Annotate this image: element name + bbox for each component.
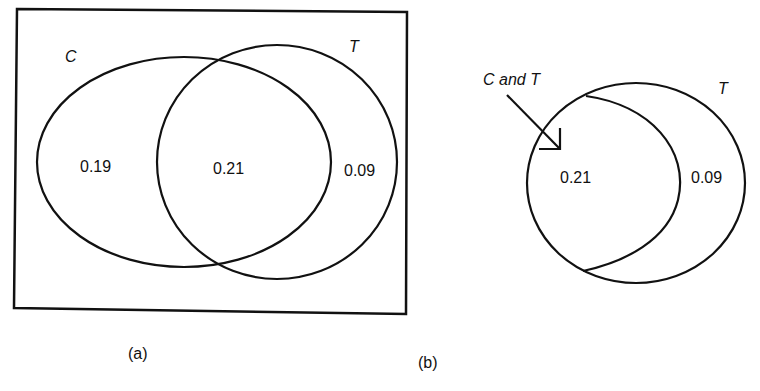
region-c-and-t-value: 0.21	[213, 161, 244, 177]
intersection-arc-b	[583, 96, 680, 271]
set-t-label-b: T	[718, 81, 728, 97]
region-c-and-t-value-b: 0.21	[560, 170, 591, 186]
venn-diagrams	[0, 0, 760, 391]
region-c-only-value: 0.19	[80, 159, 111, 175]
caption-a: (a)	[128, 346, 148, 362]
region-t-only-value-b: 0.09	[691, 170, 722, 186]
set-t-label: T	[349, 39, 359, 55]
caption-b: (b)	[418, 355, 438, 371]
set-c-label: C	[65, 49, 77, 65]
region-t-only-value: 0.09	[344, 163, 375, 179]
arrow-label: C and T	[483, 72, 540, 88]
